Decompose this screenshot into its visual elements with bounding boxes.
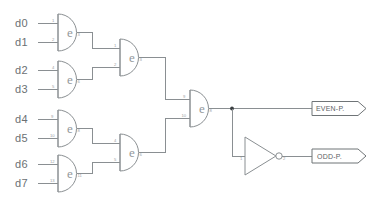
pin-num-d0: 1: [52, 18, 55, 23]
pin-num-xor-d-out: 11: [78, 173, 83, 178]
pin-num-d4: 9: [51, 114, 54, 119]
gate-xor-e-glyph: e: [129, 50, 135, 65]
pin-num-xor-f-in2: 5: [114, 157, 117, 162]
pin-num-xor-g-in1: 9: [183, 94, 186, 99]
input-label-d3: d3: [15, 83, 28, 95]
gate-xor-b-glyph: e: [67, 72, 73, 87]
pin-num-d7: 13: [50, 178, 55, 183]
pin-num-xor-e-in2: 2: [114, 62, 117, 67]
schematic-canvas: e e e e: [0, 0, 375, 208]
output-labels: EVEN-P. ODD-P.: [316, 105, 345, 160]
pin-num-xor-e-in1: 1: [114, 43, 117, 48]
gate-xor-a-glyph: e: [67, 25, 73, 40]
input-label-d7: d7: [15, 177, 28, 189]
gate-xor-f-glyph: e: [129, 145, 135, 160]
pin-num-d2: 4: [52, 65, 55, 70]
output-label-odd-parity: ODD-P.: [317, 153, 342, 160]
pin-num-d6: 12: [50, 159, 55, 164]
gate-xor-c-glyph: e: [67, 121, 73, 136]
input-labels: d0 d1 d2 d3 d4 d5 d6 d7: [15, 17, 28, 189]
gate-xor-d-glyph: e: [67, 166, 73, 181]
input-label-d1: d1: [15, 36, 28, 48]
inverter-bubble-icon: [276, 153, 282, 159]
level2-to-level3-wires: [144, 58, 190, 153]
inverter-not-1[interactable]: [245, 137, 312, 175]
input-label-d6: d6: [15, 158, 28, 170]
output-label-even-parity: EVEN-P.: [316, 105, 345, 112]
level1-to-level2-wires: [82, 33, 120, 174]
input-wires: [38, 23, 58, 183]
input-label-d5: d5: [15, 132, 28, 144]
pin-num-d1: 2: [52, 37, 55, 42]
input-label-d0: d0: [15, 17, 28, 29]
pin-num-xor-g-in2: 10: [182, 113, 187, 118]
pin-num-d3: 5: [52, 84, 55, 89]
input-label-d2: d2: [15, 64, 28, 76]
pin-num-xor-f-in1: 4: [114, 138, 117, 143]
gate-xor-g-glyph: e: [199, 101, 205, 116]
logic-diagram: e e e e: [0, 0, 375, 208]
pin-num-inverter-in: 1: [240, 156, 243, 161]
pin-num-d5: 10: [50, 133, 55, 138]
pin-num-inverter-out: 2: [283, 156, 286, 161]
pin-numbers: 1 2 4 5 9 10 12 13 3 6 8 11 1 2 3 4 5 6 …: [50, 18, 286, 183]
input-label-d4: d4: [15, 113, 28, 125]
